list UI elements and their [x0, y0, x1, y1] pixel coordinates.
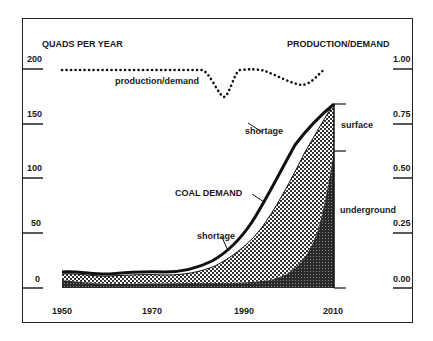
demand-leader — [252, 194, 264, 202]
left-tick-200: 200 — [27, 54, 42, 64]
left-tick-50: 50 — [31, 218, 41, 228]
left-axis — [22, 69, 43, 288]
left-axis-title: QUADS PER YEAR — [42, 39, 123, 49]
right-axis — [393, 69, 413, 288]
ratio-label: production/demand — [115, 76, 199, 86]
shortage-lower-label: shortage — [197, 231, 235, 241]
x-tick-1970: 1970 — [142, 306, 162, 316]
left-tick-100: 100 — [27, 163, 42, 173]
surface-label: surface — [341, 120, 373, 130]
right-tick-0.50: 0.50 — [393, 163, 411, 173]
left-tick-150: 150 — [27, 109, 42, 119]
coal-demand-label: COAL DEMAND — [175, 188, 243, 198]
right-tick-0.00: 0.00 — [393, 274, 411, 284]
coal-demand-chart: QUADS PER YEAR PRODUCTION/DEMAND 200 150… — [0, 0, 433, 341]
left-tick-0: 0 — [35, 274, 40, 284]
x-tick-1950: 1950 — [52, 306, 72, 316]
underground-label: underground — [340, 205, 396, 215]
right-tick-1.00: 1.00 — [393, 54, 411, 64]
shortage-upper-label: shortage — [245, 126, 283, 136]
right-tick-0.25: 0.25 — [393, 218, 411, 228]
x-tick-2010: 2010 — [323, 306, 343, 316]
right-tick-0.75: 0.75 — [393, 109, 411, 119]
right-axis-title: PRODUCTION/DEMAND — [287, 39, 390, 49]
x-tick-1990: 1990 — [234, 306, 254, 316]
